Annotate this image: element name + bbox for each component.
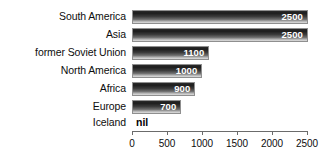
x-axis-tick: [272, 131, 273, 135]
category-label: Europe: [0, 98, 126, 115]
x-axis-tick-label: 2500: [296, 137, 318, 150]
chart-row: Europe 700: [0, 98, 328, 115]
category-label: South America: [0, 8, 126, 25]
category-label: Africa: [0, 80, 126, 97]
x-axis-tick: [237, 131, 238, 135]
category-label: North America: [0, 62, 126, 79]
category-label: former Soviet Union: [0, 44, 126, 61]
category-label: Iceland: [0, 114, 126, 131]
bar-container: 700: [132, 100, 181, 114]
chart-row: former Soviet Union 1100: [0, 44, 328, 61]
x-axis-tick: [202, 131, 203, 135]
bar-container: 1100: [132, 46, 209, 60]
chart-row: Asia 2500: [0, 26, 328, 43]
bar-value-label: 2500: [281, 29, 303, 41]
bar-value-label: 1000: [176, 65, 198, 77]
x-axis-tick-label: 2000: [261, 137, 283, 150]
horizontal-bar-chart: South America 2500 Asia 2500 former Sovi…: [0, 0, 328, 159]
bar-value-label: nil: [136, 114, 148, 131]
bar: 2500: [132, 10, 308, 24]
x-axis-tick-label: 0: [129, 137, 135, 150]
x-axis-tick-label: 500: [159, 137, 176, 150]
bar: 900: [132, 82, 195, 96]
bar-container: 1000: [132, 64, 202, 78]
x-axis-tick-label: 1000: [191, 137, 213, 150]
bar-value-label: 900: [174, 83, 190, 95]
bar-value-label: 1100: [183, 47, 204, 59]
x-axis-tick: [132, 131, 133, 135]
x-axis-line: [132, 131, 308, 132]
chart-row: North America 1000: [0, 62, 328, 79]
chart-row: Africa 900: [0, 80, 328, 97]
x-axis-tick: [167, 131, 168, 135]
bar-container: 2500: [132, 10, 308, 24]
chart-row: Iceland nil: [0, 114, 328, 131]
category-label: Asia: [0, 26, 126, 43]
bar-container: 2500: [132, 28, 308, 42]
bar: 2500: [132, 28, 308, 42]
bar-value-label: 700: [160, 101, 176, 113]
bar: 1000: [132, 64, 202, 78]
bar-container: 900: [132, 82, 195, 96]
bar: 1100: [132, 46, 209, 60]
bar: 700: [132, 100, 181, 114]
x-axis-tick: [307, 131, 308, 135]
chart-row: South America 2500: [0, 8, 328, 25]
bar-value-label: 2500: [281, 11, 303, 23]
x-axis-tick-label: 1500: [226, 137, 248, 150]
